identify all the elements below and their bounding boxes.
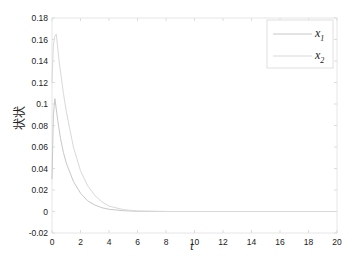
- x-tick-label: 18: [304, 237, 314, 247]
- x-tick-label: 0: [50, 237, 55, 247]
- x-tick-label: 20: [332, 237, 342, 247]
- y-tick-label: 0.18: [31, 13, 48, 23]
- x-tick-label: 8: [164, 237, 169, 247]
- y-tick-label: 0.14: [31, 56, 48, 66]
- y-tick-label: 0.16: [31, 35, 48, 45]
- y-tick-label: 0.04: [31, 164, 48, 174]
- legend: x1x2: [267, 20, 333, 68]
- x-tick-label: 2: [78, 237, 83, 247]
- chart: 02468101214161820-0.0200.020.040.060.080…: [0, 0, 357, 272]
- x-tick-label: 4: [107, 237, 112, 247]
- y-tick-label: -0.02: [29, 228, 49, 238]
- y-tick-label: 0: [43, 207, 48, 217]
- x-tick-label: 16: [275, 237, 285, 247]
- y-tick-label: 0.08: [31, 121, 48, 131]
- x-tick-label: 12: [218, 237, 228, 247]
- y-tick-label: 0.1: [36, 99, 48, 109]
- x-tick-label: 6: [135, 237, 140, 247]
- y-tick-label: 0.02: [31, 185, 48, 195]
- y-axis-label: 状状: [13, 106, 27, 130]
- y-tick-label: 0.06: [31, 142, 48, 152]
- x-tick-label: 14: [247, 237, 257, 247]
- y-tick-label: 0.12: [31, 78, 48, 88]
